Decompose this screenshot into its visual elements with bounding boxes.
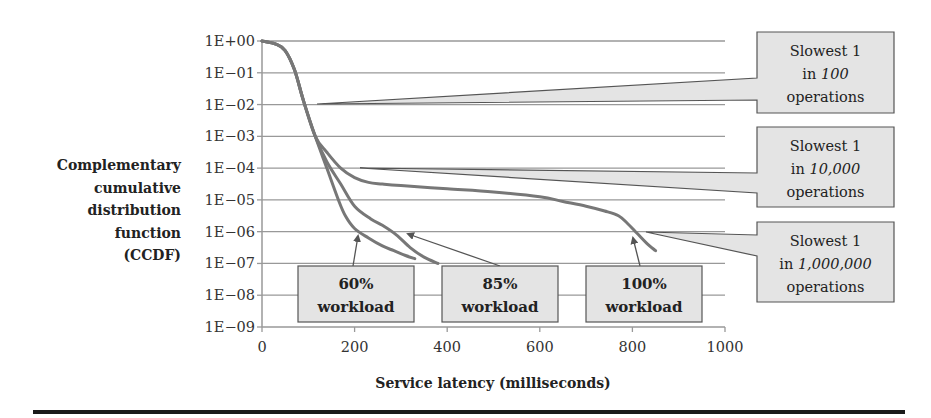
- callout-line2: in 10,000: [791, 161, 860, 177]
- y-tick-label: 1E−03: [205, 128, 255, 144]
- workload-box-line1: 100%: [621, 275, 667, 293]
- workload-box-line2: workload: [316, 298, 395, 316]
- callout-slowest-10000: Slowest 1in 10,000operations: [360, 127, 894, 207]
- y-tick-label: 1E−08: [205, 287, 255, 303]
- y-axis-title-line: distribution: [88, 202, 181, 218]
- workload-box-85pct: 85%workload: [408, 234, 558, 322]
- bottom-rule: [33, 410, 905, 414]
- y-axis-title-line: cumulative: [94, 180, 181, 196]
- callout-line3: operations: [786, 184, 864, 200]
- y-tick-label: 1E+00: [205, 33, 255, 49]
- y-axis-title: Complementarycumulativedistributionfunct…: [57, 157, 182, 263]
- y-axis-title-line: (CCDF): [123, 247, 181, 263]
- y-axis-title-line: Complementary: [57, 157, 182, 173]
- x-axis-ticks: 02004006008001000: [257, 339, 743, 355]
- workload-box-100pct: 100%workload: [586, 238, 702, 322]
- y-axis-ticks: 1E+001E−011E−021E−031E−041E−051E−061E−07…: [205, 33, 255, 335]
- x-tick-label: 600: [526, 339, 554, 355]
- arrow-pointer: [353, 236, 358, 266]
- workload-box-line1: 60%: [338, 275, 373, 293]
- curve-60pct-workload: [262, 41, 415, 259]
- callout-line3: operations: [786, 89, 864, 105]
- callout-line2: in 1,000,000: [779, 256, 871, 272]
- arrow-pointer: [408, 234, 500, 266]
- workload-box-line2: workload: [604, 298, 683, 316]
- workload-labels: 60%workload85%workload100%workload: [298, 234, 702, 322]
- x-tick-label: 200: [341, 339, 369, 355]
- ccdf-curves: [262, 41, 656, 263]
- x-tick-label: 400: [433, 339, 461, 355]
- callout-line1: Slowest 1: [790, 43, 861, 59]
- x-tick-label: 0: [257, 339, 266, 355]
- x-axis-title: Service latency (milliseconds): [375, 375, 610, 391]
- x-tick-label: 800: [619, 339, 647, 355]
- y-tick-label: 1E−09: [205, 319, 255, 335]
- y-tick-label: 1E−01: [205, 65, 255, 81]
- y-axis-title-line: function: [115, 225, 181, 241]
- arrow-pointer: [633, 238, 640, 266]
- y-tick-label: 1E−05: [205, 192, 255, 208]
- callout-line1: Slowest 1: [790, 138, 861, 154]
- callout-line2: in 100: [802, 66, 848, 82]
- workload-box-60pct: 60%workload: [298, 236, 414, 322]
- workload-box-line1: 85%: [482, 275, 517, 293]
- y-tick-label: 1E−07: [205, 255, 255, 271]
- callout-line3: operations: [786, 279, 864, 295]
- y-tick-label: 1E−06: [205, 224, 255, 240]
- y-tick-label: 1E−04: [205, 160, 255, 176]
- ccdf-latency-chart: Complementarycumulativedistributionfunct…: [0, 0, 931, 418]
- workload-box-line2: workload: [460, 298, 539, 316]
- x-tick-label: 1000: [707, 339, 744, 355]
- curve-85pct-workload: [262, 41, 438, 263]
- y-tick-label: 1E−02: [205, 97, 255, 113]
- callout-line1: Slowest 1: [790, 233, 861, 249]
